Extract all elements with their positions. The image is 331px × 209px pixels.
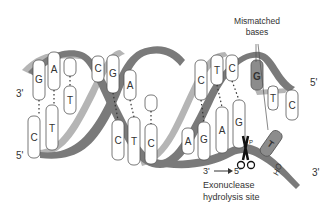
svg-text:T: T: [49, 123, 55, 134]
svg-text:T: T: [131, 136, 137, 147]
svg-text:A: A: [185, 136, 192, 147]
dna-helix-figure: G A C G A C T C G T C C T T C T C A G A …: [0, 0, 331, 209]
mismatched-g-label: G: [253, 71, 261, 82]
right-top-end-label: 5': [310, 77, 318, 88]
svg-text:A: A: [219, 125, 226, 136]
svg-text:G: G: [235, 117, 243, 128]
exonuclease-label-line2: hydrolysis site: [203, 192, 260, 202]
right-bottom-end-label: 3': [312, 167, 320, 178]
dna-diagram: G A C G A C T C G T C C T T C T C A G A …: [0, 0, 331, 209]
direction-from-label: 3': [203, 166, 210, 176]
svg-text:C: C: [114, 135, 121, 146]
svg-text:A: A: [127, 80, 134, 91]
mismatched-label-line2: bases: [246, 27, 269, 37]
svg-text:T: T: [270, 93, 276, 104]
svg-text:T: T: [214, 65, 220, 76]
left-bottom-end-label: 5': [16, 150, 24, 161]
mismatched-label-line1: Mismatched: [234, 16, 280, 26]
svg-text:G: G: [109, 68, 117, 79]
svg-text:C: C: [94, 63, 101, 74]
svg-text:G: G: [35, 74, 43, 85]
left-top-end-label: 3': [16, 88, 24, 99]
svg-text:G: G: [200, 134, 208, 145]
svg-text:A: A: [51, 64, 58, 75]
svg-text:C: C: [30, 132, 37, 143]
mismatched-base-t: T: [258, 128, 284, 158]
svg-text:C: C: [288, 100, 295, 111]
svg-text:T: T: [67, 95, 73, 106]
svg-text:C: C: [197, 75, 204, 86]
arrow-right-icon: [214, 168, 233, 174]
phosphate-label: P: [249, 139, 253, 145]
svg-text:C: C: [228, 63, 235, 74]
exonuclease-label-line1: Exonuclease: [203, 180, 255, 190]
svg-text:C: C: [147, 138, 154, 149]
direction-to-label: 5': [234, 166, 241, 176]
